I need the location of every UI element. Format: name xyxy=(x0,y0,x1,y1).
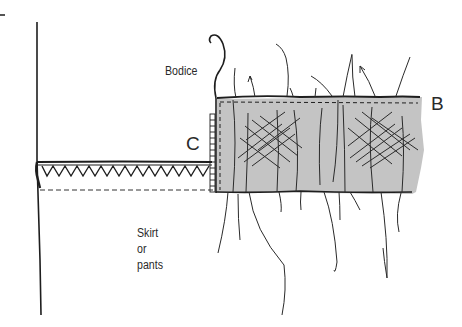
hook xyxy=(210,35,225,98)
drawing xyxy=(0,0,462,327)
label-bodice: Bodice xyxy=(165,65,197,78)
label-skirt-or-pants: Skirt or pants xyxy=(137,225,163,273)
loose-threads-top xyxy=(234,44,410,98)
illustration: Bodice Skirt or pants B C xyxy=(0,0,462,327)
label-point-c: C xyxy=(186,134,200,153)
ladder-stitch xyxy=(210,114,215,192)
catch-stitch xyxy=(42,166,209,176)
hem-top-edge xyxy=(37,162,212,163)
skirt-edge-line xyxy=(37,22,41,315)
label-point-b: B xyxy=(431,94,444,113)
loose-threads-bottom xyxy=(218,192,401,315)
